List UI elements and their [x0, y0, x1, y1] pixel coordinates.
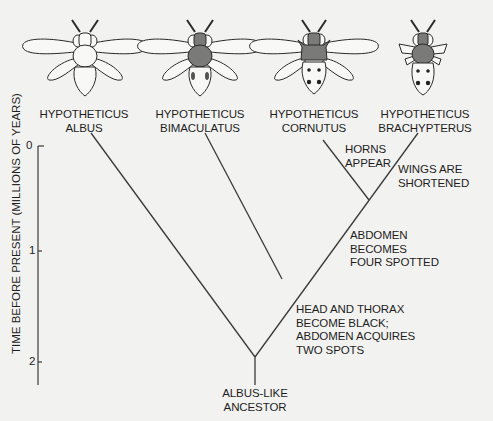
- annotation-line: ABDOMEN ACQUIRES: [296, 330, 415, 344]
- annotation-wings: WINGS ARE SHORTENED: [398, 163, 469, 190]
- annotation-line: TWO SPOTS: [296, 344, 415, 358]
- annotation-horns: HORNS APPEAR: [345, 143, 391, 170]
- annotation-line: WINGS ARE: [398, 163, 469, 177]
- species-label-albus: HYPOTHETICUS ALBUS: [40, 108, 129, 135]
- phylogeny-diagram: [0, 0, 493, 421]
- white-insect-icon: [23, 20, 148, 96]
- species-epithet: ALBUS: [40, 122, 129, 136]
- species-genus: HYPOTHETICUS: [378, 108, 471, 122]
- tick-2: 2: [29, 355, 35, 367]
- root-line: ANCESTOR: [222, 401, 287, 415]
- horned-four-spotted-insect-icon: [250, 20, 379, 94]
- species-label-bimaculatus: HYPOTHETICUS BIMACULATUS: [156, 108, 245, 135]
- species-genus: HYPOTHETICUS: [40, 108, 129, 122]
- two-spotted-insect-icon: [138, 20, 263, 96]
- short-winged-four-spotted-insect-icon: [399, 20, 447, 95]
- annotation-line: FOUR SPOTTED: [350, 256, 439, 270]
- annotation-head-thorax: HEAD AND THORAX BECOME BLACK; ABDOMEN AC…: [296, 303, 415, 357]
- time-axis: [38, 146, 44, 385]
- species-epithet: BRACHYPTERUS: [378, 122, 471, 136]
- species-genus: HYPOTHETICUS: [156, 108, 245, 122]
- species-genus: HYPOTHETICUS: [270, 108, 359, 122]
- annotation-line: BECOMES: [350, 243, 439, 257]
- species-label-cornutus: HYPOTHETICUS CORNUTUS: [270, 108, 359, 135]
- annotation-line: SHORTENED: [398, 177, 469, 191]
- root-label: ALBUS-LIKE ANCESTOR: [222, 387, 287, 414]
- y-axis-label: TIME BEFORE PRESENT (MILLIONS OF YEARS): [10, 93, 22, 354]
- species-epithet: CORNUTUS: [270, 122, 359, 136]
- species-epithet: BIMACULATUS: [156, 122, 245, 136]
- tick-0: 0: [26, 139, 32, 151]
- branch-albus: [91, 133, 255, 357]
- annotation-line: BECOME BLACK;: [296, 317, 415, 331]
- tick-1: 1: [29, 244, 35, 256]
- root-line: ALBUS-LIKE: [222, 387, 287, 401]
- annotation-line: APPEAR: [345, 157, 391, 171]
- annotation-line: HORNS: [345, 143, 391, 157]
- species-label-brachypterus: HYPOTHETICUS BRACHYPTERUS: [378, 108, 471, 135]
- annotation-line: HEAD AND THORAX: [296, 303, 415, 317]
- annotation-abdomen: ABDOMEN BECOMES FOUR SPOTTED: [350, 229, 439, 270]
- branch-bimaculatus: [205, 133, 282, 279]
- annotation-line: ABDOMEN: [350, 229, 439, 243]
